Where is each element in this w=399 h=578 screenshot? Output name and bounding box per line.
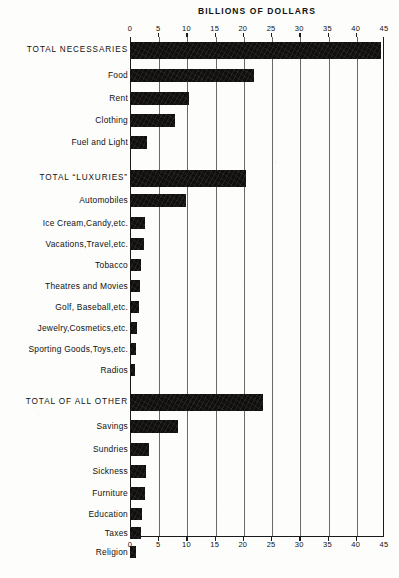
bar [130,280,140,292]
bar [130,114,175,127]
bar-texture [130,42,381,59]
bar-texture [130,364,135,376]
bar-row: Clothing [0,114,397,127]
x-tick-label: 35 [323,540,332,549]
bar-label: Golf, Baseball,etc. [55,303,128,311]
bar-label: Religion [96,548,128,556]
bar-label: Jewelry,Cosmetics,etc. [37,324,128,332]
bar-label: Ice Cream,Candy,etc. [43,219,128,227]
bar [130,487,145,500]
bar-row: Theatres and Movies [0,280,397,292]
bar-row: Tobacco [0,259,397,271]
x-tick-label: 30 [295,540,304,549]
bar-row: Rent [0,92,397,105]
bar-texture [130,69,254,82]
bar-row: Sporting Goods,Toys,etc. [0,343,397,355]
bar [130,194,186,207]
bar-label: Savings [96,422,128,430]
bar-texture [130,238,144,250]
bar-label: Rent [109,94,128,102]
bar-row: Automobiles [0,194,397,207]
bar [130,420,178,433]
bar-row: Furniture [0,487,397,500]
bar [130,343,136,355]
x-tick-mark [158,537,159,541]
bar-row: Golf, Baseball,etc. [0,301,397,313]
bar-texture [130,170,246,187]
bar-row: Ice Cream,Candy,etc. [0,217,397,229]
x-tick-mark [271,537,272,541]
x-tick-mark [356,537,357,541]
axis-line-bottom [130,536,384,537]
bar-label: Sundries [93,445,128,453]
x-tick-mark [215,537,216,541]
bar-texture [130,114,175,127]
x-tick-mark [186,537,187,541]
bar-label: Sporting Goods,Toys,etc. [28,345,128,353]
bar-label: Education [89,510,129,518]
bar-texture [130,420,178,433]
x-tick-label: 5 [156,540,160,549]
bar-texture [130,301,139,313]
group-total-bar [130,170,246,187]
bar-label: Theatres and Movies [45,282,128,290]
x-tick-label: 0 [128,540,132,549]
bar-row: TOTAL “LUXURIES” [0,170,397,187]
bar-texture [130,343,136,355]
bar-row: Savings [0,420,397,433]
group-total-label: TOTAL OF ALL OTHER [26,398,128,406]
bar [130,136,147,149]
bar [130,301,139,313]
x-tick-mark [243,537,244,541]
bar-texture [130,465,146,478]
bar [130,259,141,271]
bar [130,238,144,250]
bar-row: Fuel and Light [0,136,397,149]
bar-texture [130,217,145,229]
bar [130,508,142,520]
x-tick-label: 10 [182,540,191,549]
bar-row: Sundries [0,443,397,456]
bar-texture [130,136,147,149]
bar-row: Sickness [0,465,397,478]
bar-texture [130,92,189,105]
bar-row: TOTAL NECESSARIES [0,42,397,59]
bar-row: Radios [0,364,397,376]
bar-texture [130,259,141,271]
group-total-bar [130,42,381,59]
bar-label: Fuel and Light [71,138,128,146]
bar-row: Education [0,508,397,520]
group-total-label: TOTAL “LUXURIES” [40,174,128,182]
bar-row: TOTAL OF ALL OTHER [0,394,397,411]
bar [130,443,149,456]
bar-label: Taxes [105,529,128,537]
x-tick-mark [328,537,329,541]
group-total-bar [130,394,263,411]
x-tick-label: 40 [351,540,360,549]
bar-texture [130,508,142,520]
bar-texture [130,394,263,411]
bar [130,69,254,82]
x-tick-mark [299,537,300,541]
x-tick-label: 15 [210,540,219,549]
bar-row: Jewelry,Cosmetics,etc. [0,322,397,334]
bar [130,465,146,478]
bar-row: Food [0,69,397,82]
bar-texture [130,280,140,292]
x-tick-label: 25 [267,540,276,549]
bar-label: Furniture [92,489,128,497]
bar-texture [130,487,145,500]
bar [130,217,145,229]
bar-label: Radios [100,366,128,374]
group-total-label: TOTAL NECESSARIES [27,46,128,54]
bar-label: Food [108,71,128,79]
bar-row: Vacations,Travel,etc. [0,238,397,250]
bar-texture [130,322,137,334]
bar-label: Vacations,Travel,etc. [45,240,128,248]
bar [130,92,189,105]
bar-label: Clothing [95,116,128,124]
x-tick-label: 45 [380,540,389,549]
bar-texture [130,443,149,456]
